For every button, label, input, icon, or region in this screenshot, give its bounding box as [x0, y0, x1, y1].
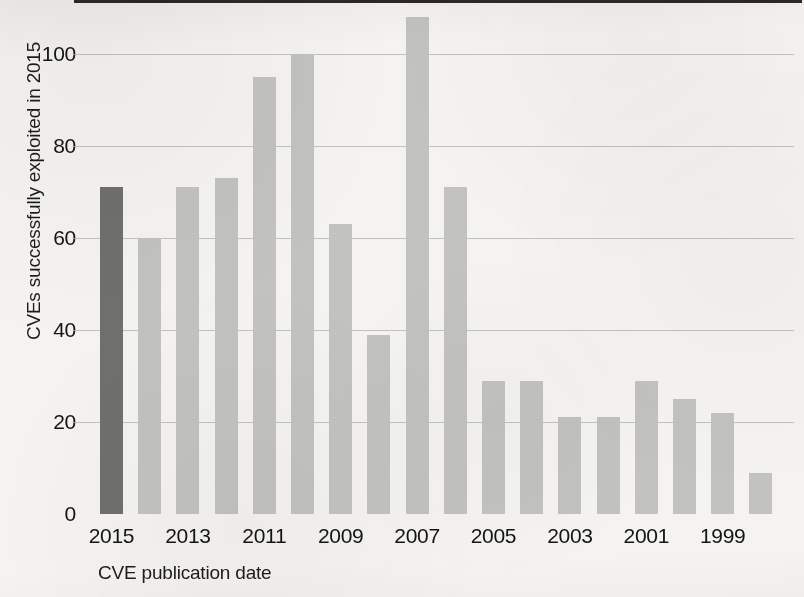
bar-2001	[635, 381, 658, 514]
x-axis-title: CVE publication date	[98, 562, 271, 584]
bar-2007	[406, 17, 429, 514]
bar-2013	[176, 187, 199, 514]
bar-2015	[100, 187, 123, 514]
y-tick-label: 20	[24, 410, 76, 434]
bar-chart: CVEs successfully exploited in 2015 1008…	[0, 0, 804, 597]
y-tick-label: 60	[24, 226, 76, 250]
x-axis-line	[74, 0, 802, 3]
x-tick-label: 2005	[471, 524, 517, 548]
bar-2008	[367, 335, 390, 514]
bar-2010	[291, 54, 314, 514]
bar-2000	[673, 399, 696, 514]
bar-2014	[138, 238, 161, 514]
y-tick-label: 40	[24, 318, 76, 342]
y-tick-label: 100	[24, 42, 76, 66]
y-tick-label: 0	[24, 502, 76, 526]
bar-2006	[444, 187, 467, 514]
bar-2009	[329, 224, 352, 514]
bar-2003	[558, 417, 581, 514]
x-tick-label: 2009	[318, 524, 364, 548]
x-tick-label: 2007	[394, 524, 440, 548]
y-axis-ticks: 100806040200	[16, 0, 76, 597]
x-tick-label: 2011	[242, 524, 286, 548]
bar-2002	[597, 417, 620, 514]
bar-1998	[749, 473, 772, 514]
bar-1999	[711, 413, 734, 514]
bar-2004	[520, 381, 543, 514]
x-tick-label: 2013	[165, 524, 211, 548]
bars-group	[88, 0, 804, 514]
x-tick-label: 2015	[89, 524, 135, 548]
bar-2012	[215, 178, 238, 514]
bar-2005	[482, 381, 505, 514]
plot-area: 201520132011200920072005200320011999 CVE…	[88, 0, 804, 597]
bar-2011	[253, 77, 276, 514]
y-tick-label: 80	[24, 134, 76, 158]
x-tick-label: 2001	[624, 524, 670, 548]
x-tick-label: 1999	[700, 524, 746, 548]
x-tick-label: 2003	[547, 524, 593, 548]
